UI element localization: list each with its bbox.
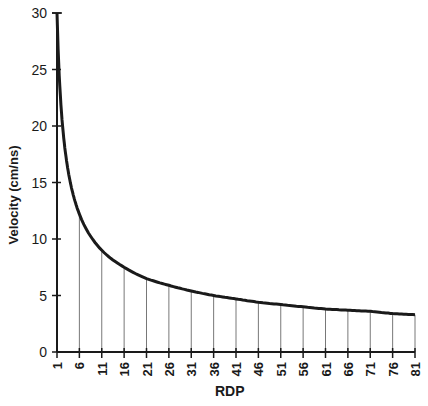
svg-text:6: 6: [72, 362, 87, 369]
drop-lines: [79, 214, 415, 352]
svg-text:61: 61: [319, 362, 334, 376]
svg-text:20: 20: [31, 118, 47, 134]
y-axis-label-text: Velocity (cm/ns): [6, 146, 21, 245]
axes: [52, 13, 415, 352]
svg-text:16: 16: [117, 362, 132, 376]
svg-text:21: 21: [140, 362, 155, 376]
velocity-rdp-chart: 051015202530 161116212631364146515661667…: [0, 0, 428, 406]
svg-text:25: 25: [31, 62, 47, 78]
svg-text:46: 46: [251, 362, 266, 376]
svg-text:76: 76: [386, 362, 401, 376]
svg-text:81: 81: [408, 362, 423, 376]
svg-text:66: 66: [341, 362, 356, 376]
svg-text:10: 10: [31, 231, 47, 247]
svg-text:30: 30: [31, 5, 47, 21]
svg-text:51: 51: [274, 362, 289, 376]
y-axis-label: Velocity (cm/ns): [3, 110, 23, 280]
svg-text:0: 0: [39, 344, 47, 360]
svg-text:41: 41: [229, 362, 244, 376]
svg-text:15: 15: [31, 175, 47, 191]
svg-text:31: 31: [184, 362, 199, 376]
velocity-curve: [57, 13, 415, 315]
svg-text:5: 5: [39, 288, 47, 304]
x-axis-label: RDP: [215, 383, 245, 399]
svg-text:36: 36: [207, 362, 222, 376]
svg-text:71: 71: [363, 362, 378, 376]
svg-text:26: 26: [162, 362, 177, 376]
svg-text:11: 11: [95, 362, 110, 376]
svg-text:56: 56: [296, 362, 311, 376]
svg-text:1: 1: [50, 362, 65, 369]
